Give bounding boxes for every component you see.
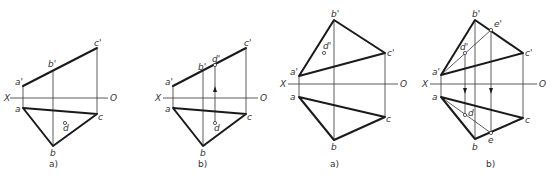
label-b1: b'	[48, 59, 56, 69]
label-c: c	[525, 115, 530, 125]
front-view-triangle	[299, 20, 385, 76]
front-view-line	[23, 48, 97, 86]
panel-4: X O b' e' d' c' a' a d c e b b)	[421, 9, 546, 169]
label-b: b	[331, 142, 337, 152]
label-e: e	[488, 135, 494, 145]
label-a: a	[432, 92, 438, 102]
panel-3: X O b' d' c' a' a c b a)	[279, 9, 407, 169]
label-a: a	[15, 104, 21, 114]
label-b1: b'	[198, 62, 206, 72]
point-e1	[489, 28, 492, 31]
top-view-triangle	[23, 108, 97, 146]
label-a1: a'	[165, 77, 173, 87]
label-a: a	[165, 104, 171, 114]
label-c: c	[386, 114, 391, 124]
front-view-line	[173, 48, 246, 86]
axis-label-x: X	[3, 93, 11, 103]
point-d	[463, 113, 466, 116]
label-a1: a'	[290, 67, 298, 77]
label-d1: d'	[212, 54, 220, 64]
arrow-up-icon	[213, 86, 217, 92]
axis-label-x: X	[279, 79, 287, 89]
label-d: d	[214, 123, 220, 133]
top-view-triangle	[299, 97, 385, 140]
point-d1	[322, 51, 325, 54]
axis-label-o: O	[400, 79, 407, 89]
label-b: b	[50, 148, 56, 158]
label-a1: a'	[432, 67, 440, 77]
caption: a)	[330, 159, 339, 169]
arrow-down-icon	[463, 88, 467, 94]
label-b: b	[472, 142, 478, 152]
axis-label-o: O	[260, 93, 267, 103]
label-c1: c'	[525, 48, 532, 58]
label-c1: c'	[94, 38, 101, 48]
label-c1: c'	[244, 38, 251, 48]
label-c: c	[247, 112, 252, 122]
label-c: c	[98, 112, 103, 122]
label-a: a	[290, 92, 296, 102]
label-a1: a'	[15, 77, 23, 87]
label-d: d	[468, 108, 474, 118]
label-e1: e'	[494, 19, 502, 29]
axis-label-x: X	[154, 93, 162, 103]
projection-diagram: X O a' b' c' a b c d a) X O a' b' d' c' …	[0, 0, 553, 179]
label-b1: b'	[472, 9, 480, 19]
panel-1: X O a' b' c' a b c d a)	[3, 38, 117, 169]
top-view-triangle	[441, 97, 523, 139]
caption: a)	[49, 159, 58, 169]
axis-label-x: X	[421, 79, 429, 89]
label-d1: d'	[323, 41, 331, 51]
panel-2: X O a' b' d' c' a b c d b)	[154, 38, 267, 169]
axis-label-o: O	[110, 93, 117, 103]
top-view-triangle	[173, 108, 246, 146]
label-b1: b'	[331, 9, 339, 19]
label-d: d	[63, 123, 69, 133]
label-b: b	[200, 148, 206, 158]
axis-label-o: O	[539, 79, 546, 89]
caption: b)	[486, 159, 495, 169]
arrow-down-icon	[489, 88, 493, 94]
caption: b)	[198, 159, 207, 169]
label-d1: d'	[460, 42, 468, 52]
label-c1: c'	[387, 48, 394, 58]
front-view-triangle	[441, 20, 523, 75]
